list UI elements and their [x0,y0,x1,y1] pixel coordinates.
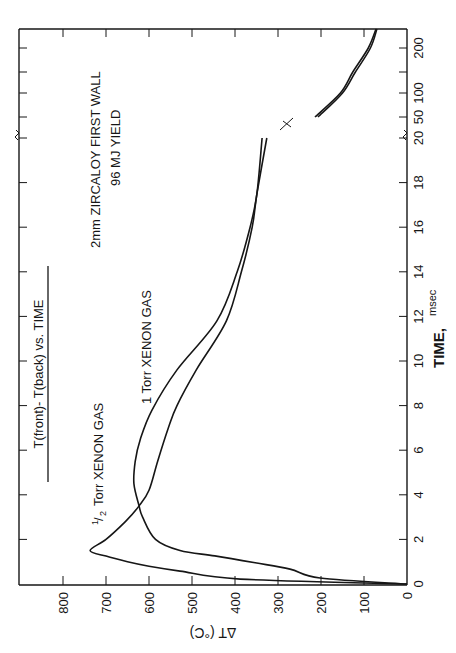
one-torr-label-group: 1 Torr XENON GAS [139,290,154,404]
delta-t-tick-label-group: 500 [185,592,200,614]
time-tick-label: 4 [411,491,426,498]
time-tick-label: 100 [411,82,426,104]
half-torr-label-group: 1 / 2 Torr XENON GAS [90,402,108,525]
annotation-group: 2mm ZIRCALOY FIRST WALL [88,71,103,248]
axis-ticks: 0246810121416182050100200010020030040050… [19,29,426,614]
delta-t-tick-label-group: 800 [56,592,71,614]
annotation-line-1: 2mm ZIRCALOY FIRST WALL [88,71,103,248]
delta-t-tick-label: 700 [99,592,114,614]
x-axis-label-group: TIME, msec [426,289,447,368]
half-torr-text: Torr XENON GAS [91,402,106,506]
data-curves [90,29,407,584]
time-tick-label-group: 16 [411,220,426,234]
delta-t-tick-label-group: 700 [99,592,114,614]
chart-container: 0246810121416182050100200010020030040050… [0,0,456,653]
time-tick-label-group: 100 [411,82,426,104]
time-tick-label-group: 12 [411,309,426,323]
delta-t-tick-label: 800 [56,592,71,614]
time-tick-label-group: 50 [411,110,426,124]
time-tick-label-group: 6 [411,447,426,454]
half-torr-curve [90,138,407,584]
time-tick-label-group: 4 [411,491,426,498]
delta-t-tick-label-group: 300 [271,592,286,614]
delta-t-tick-label: 200 [314,592,329,614]
time-tick-label-group: 14 [411,265,426,279]
time-tick-label: 18 [411,175,426,189]
delta-t-tick-label: 300 [271,592,286,614]
x-axis-unit: msec [426,289,438,316]
time-tick-label: 20 [411,131,426,145]
delta-t-tick-label-group: 0 [400,592,415,599]
delta-t-vs-time-chart: 0246810121416182050100200010020030040050… [0,0,456,653]
x-axis-label: TIME, [430,328,447,368]
delta-t-tick-label-group: 400 [228,592,243,614]
one-torr-curve [134,138,407,584]
curve-break-marker [280,118,293,130]
time-tick-label: 12 [411,309,426,323]
time-tick-label: 10 [411,354,426,368]
time-tick-label-group: 20 [411,131,426,145]
plot-frame [15,29,407,585]
time-tick-label-group: 8 [411,402,426,409]
half-torr-curve-tail [318,29,377,117]
time-tick-label: 14 [411,265,426,279]
delta-t-tick-label-group: 600 [142,592,157,614]
time-tick-label: 50 [411,110,426,124]
one-torr-text: 1 Torr XENON GAS [139,290,154,404]
delta-t-tick-label: 0 [400,592,415,599]
delta-t-tick-label: 600 [142,592,157,614]
annotation-line-2: 96 MJ YIELD [108,110,123,186]
time-tick-label: 0 [411,580,426,587]
delta-t-tick-label-group: 200 [314,592,329,614]
time-tick-label: 200 [411,37,426,59]
time-tick-label-group: 18 [411,175,426,189]
chart-title: T(front)- T(back) vs. TIME [31,299,46,448]
time-tick-label-group: 2 [411,536,426,543]
chart-title-group: T(front)- T(back) vs. TIME [31,266,48,482]
delta-t-tick-label-group: 100 [357,592,372,614]
delta-t-tick-label: 400 [228,592,243,614]
y-axis-label-group: ΔT (°C) [190,625,237,641]
time-tick-label-group: 10 [411,354,426,368]
y-axis-label: ΔT (°C) [190,625,237,641]
half-torr-slash: / [91,517,106,521]
one-torr-curve-tail [315,29,376,117]
time-tick-label: 8 [411,402,426,409]
time-tick-label-group: 0 [411,580,426,587]
delta-t-tick-label: 100 [357,592,372,614]
delta-t-tick-label: 500 [185,592,200,614]
time-tick-label-group: 200 [411,37,426,59]
time-tick-label: 6 [411,447,426,454]
half-torr-den: 2 [98,511,108,516]
time-tick-label: 2 [411,536,426,543]
time-tick-label: 16 [411,220,426,234]
annotation-group-2: 96 MJ YIELD [108,110,123,186]
